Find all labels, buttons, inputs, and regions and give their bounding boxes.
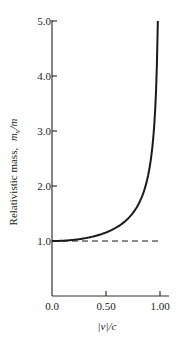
x-tick-label: 1.00 [150,300,170,312]
x-tick-label: 0.0 [45,300,59,312]
y-tick-label: 3.0 [37,125,51,137]
x-ticks: 0.00.501.00 [45,291,170,312]
y-ticks: 1.02.03.04.05.0 [37,15,57,247]
y-tick-label: 2.0 [37,180,51,192]
x-tick-label: 0.50 [96,300,116,312]
y-axis-label-text: Relativistic mass, [7,148,19,226]
y-tick-label: 4.0 [37,70,51,82]
y-axis-label: Relativistic mass, mv/m [7,119,22,226]
mass-curve [52,21,158,241]
x-axis-label: |v|/c [98,320,117,332]
series [52,21,160,241]
chart: 1.02.03.04.05.0 0.00.501.00 |v|/c Relati… [0,0,182,344]
svg-text:Relativistic mass, mv/m: Relativistic mass, mv/m [7,119,22,226]
y-tick-label: 5.0 [37,15,51,27]
y-axis-label-symbol: m [7,133,19,141]
y-tick-label: 1.0 [37,235,51,247]
